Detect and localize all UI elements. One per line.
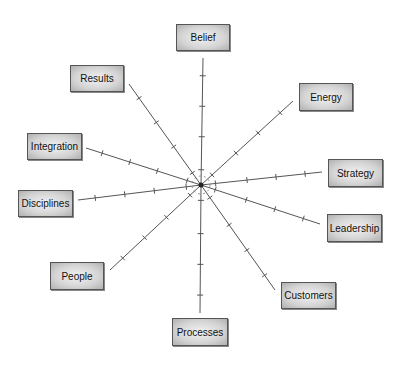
node-strategy: Strategy [328,159,383,187]
node-disciplines: Disciplines [18,190,73,217]
node-energy: Energy [299,83,353,111]
node-integration: Integration [27,133,82,160]
node-customers: Customers [281,282,336,309]
spoke-diagram: Belief Energy Strategy Leadership Custom… [0,0,404,365]
node-people: People [50,262,104,290]
node-results: Results [70,65,124,92]
node-leadership: Leadership [327,214,382,242]
node-processes: Processes [172,318,228,346]
node-belief: Belief [176,24,230,51]
